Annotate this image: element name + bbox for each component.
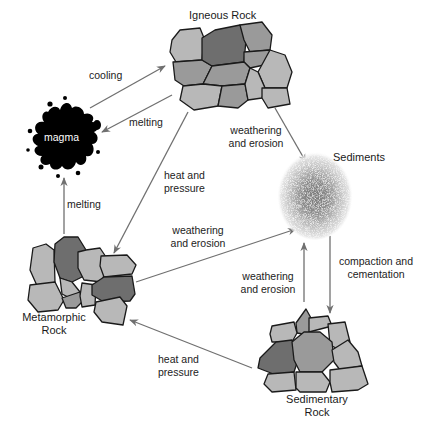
edge-label-line1: weathering (220, 124, 292, 137)
edge-label-melting-igneous: melting (129, 116, 163, 129)
sedimentary-rock-label-line1: Sedimentary (279, 393, 355, 406)
edge-label-line1: weathering (162, 224, 234, 237)
edge-label-heat-pressure-igneous: heat and pressure (164, 169, 205, 195)
sediments-label: Sediments (333, 151, 385, 164)
sedimentary-rock-label: Sedimentary Rock (279, 393, 355, 419)
edge-label-weathering-igneous: weathering and erosion (220, 124, 292, 150)
edge-label-melting-metamorphic: melting (67, 198, 101, 211)
edge-label-line2: pressure (158, 366, 199, 379)
metamorphic-rock-label: Metamorphic Rock (16, 311, 92, 337)
igneous-rock-illustration (170, 22, 292, 110)
diagram-canvas (0, 0, 435, 435)
edge-label-line1: compaction and (331, 255, 421, 268)
edge-label-line2: and erosion (236, 283, 300, 296)
edge-label-line2: and erosion (220, 137, 292, 150)
edge-label-cooling: cooling (89, 69, 122, 82)
edge-label-line2: cementation (331, 268, 421, 281)
edge-label-line2: and erosion (162, 237, 234, 250)
sedimentary-rock-label-line2: Rock (279, 406, 355, 419)
rock-cycle-diagram: Igneous Rock magma Sediments Metamorphic… (0, 0, 435, 435)
edge-label-compaction-cementation: compaction and cementation (331, 255, 421, 281)
edge-label-line1: heat and (158, 353, 199, 366)
edge-label-weathering-metamorphic: weathering and erosion (162, 224, 234, 250)
edge-label-line1: weathering (236, 270, 300, 283)
metamorphic-rock-label-line2: Rock (16, 324, 92, 337)
edge-label-line2: pressure (164, 182, 205, 195)
metamorphic-rock-label-line1: Metamorphic (16, 311, 92, 324)
edge-label-weathering-sedimentary: weathering and erosion (236, 270, 300, 296)
igneous-rock-label: Igneous Rock (189, 9, 256, 22)
edge-label-heat-pressure-sedimentary: heat and pressure (158, 353, 199, 379)
edge-label-line1: heat and (164, 169, 205, 182)
sedimentary-rock-illustration (258, 309, 368, 392)
magma-label: magma (44, 131, 79, 144)
